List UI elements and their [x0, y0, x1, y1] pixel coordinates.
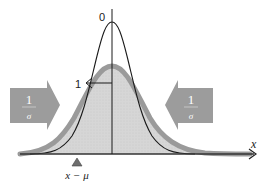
normal-distribution-diagram: 0 1 x 1 σ 1 σ x − μ	[0, 0, 269, 192]
right-block-arrow: 1 σ	[165, 80, 213, 130]
right-arrow-denominator: σ	[189, 111, 194, 121]
left-arrow-numerator: 1	[26, 92, 33, 107]
right-arrow-numerator: 1	[188, 92, 195, 107]
x-axis-label: x	[250, 137, 257, 151]
marker-label: x − μ	[64, 169, 89, 181]
left-block-arrow: 1 σ	[10, 80, 60, 130]
left-arrow-denominator: σ	[27, 111, 32, 121]
sigma-point-label: 1	[75, 78, 81, 90]
peak-label: 0	[99, 11, 105, 23]
triangle-marker-icon	[72, 158, 82, 166]
